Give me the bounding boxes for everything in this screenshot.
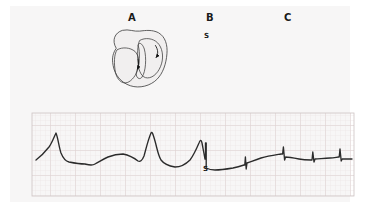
ecg-strip: [0, 0, 370, 208]
shock-label-ecg: S: [203, 165, 208, 173]
figure-root: A B C S S: [0, 0, 370, 208]
